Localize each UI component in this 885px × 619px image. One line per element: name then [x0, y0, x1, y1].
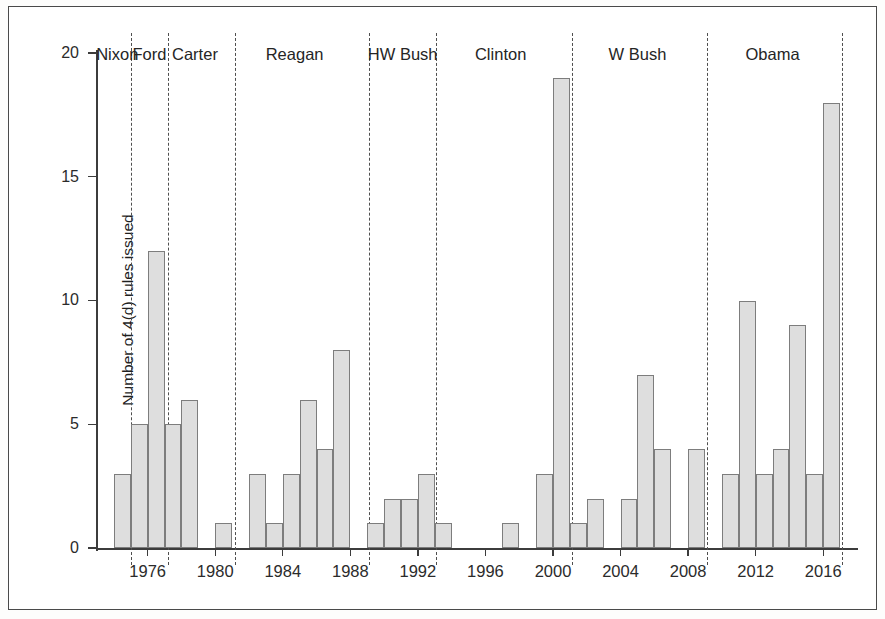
- y-tick-label: 20: [61, 44, 79, 62]
- bar: [215, 523, 232, 548]
- president-label: Obama: [745, 45, 799, 64]
- x-tick-label: 1992: [400, 562, 437, 581]
- bar: [114, 474, 131, 548]
- bar: [317, 449, 334, 548]
- term-divider-line: [369, 33, 370, 565]
- y-tick: 20: [88, 52, 96, 53]
- bar: [688, 449, 705, 548]
- y-tick: 5: [88, 424, 96, 425]
- bar: [384, 499, 401, 549]
- y-tick-label: 0: [70, 539, 79, 557]
- x-tick-label: 1984: [264, 562, 301, 581]
- y-tick-label: 5: [70, 415, 79, 433]
- x-tick-label: 2008: [670, 562, 707, 581]
- figure-container: Number of 4(d) rules issued 05101520 197…: [0, 0, 885, 619]
- president-label: Carter: [172, 45, 218, 64]
- x-tick-label: 2004: [602, 562, 639, 581]
- term-divider-line: [572, 33, 573, 565]
- bar: [367, 523, 384, 548]
- x-tick-label: 1988: [332, 562, 369, 581]
- bar: [722, 474, 739, 548]
- president-label: HW Bush: [368, 45, 438, 64]
- x-tick: [282, 548, 283, 556]
- term-divider-line: [436, 33, 437, 565]
- term-divider-line: [707, 33, 708, 565]
- x-tick-label: 1996: [467, 562, 504, 581]
- y-tick: 0: [88, 547, 96, 548]
- x-axis-line: [96, 548, 858, 550]
- bar: [333, 350, 350, 548]
- president-label: Clinton: [475, 45, 526, 64]
- x-tick: [823, 548, 824, 556]
- bar: [435, 523, 452, 548]
- term-divider-line: [235, 33, 236, 565]
- bar: [502, 523, 519, 548]
- bar: [654, 449, 671, 548]
- president-label: Reagan: [266, 45, 324, 64]
- bar: [756, 474, 773, 548]
- x-tick-label: 2012: [737, 562, 774, 581]
- bar: [773, 449, 790, 548]
- y-axis-line: [96, 50, 98, 551]
- president-label: Ford: [132, 45, 166, 64]
- bar: [823, 103, 840, 549]
- president-label: W Bush: [609, 45, 667, 64]
- y-tick-label: 15: [61, 168, 79, 186]
- bar: [739, 301, 756, 549]
- y-tick-label: 10: [61, 291, 79, 309]
- x-tick: [215, 548, 216, 556]
- x-tick: [147, 548, 148, 556]
- x-tick: [755, 548, 756, 556]
- x-tick-label: 2000: [535, 562, 572, 581]
- x-tick: [687, 548, 688, 556]
- x-tick: [620, 548, 621, 556]
- bar: [181, 400, 198, 549]
- bar: [553, 78, 570, 548]
- x-tick: [485, 548, 486, 556]
- x-tick-label: 2016: [805, 562, 842, 581]
- bar: [249, 474, 266, 548]
- bar: [266, 523, 283, 548]
- bar: [283, 474, 300, 548]
- y-tick: 10: [88, 300, 96, 301]
- bar: [587, 499, 604, 549]
- x-tick-label: 1976: [129, 562, 166, 581]
- bar: [418, 474, 435, 548]
- y-tick: 15: [88, 176, 96, 177]
- x-tick: [417, 548, 418, 556]
- bar: [570, 523, 587, 548]
- y-axis-label: Number of 4(d) rules issued: [119, 214, 137, 405]
- bar: [165, 424, 182, 548]
- bar: [300, 400, 317, 549]
- bar: [806, 474, 823, 548]
- x-tick: [350, 548, 351, 556]
- bar: [401, 499, 418, 549]
- x-tick: [552, 548, 553, 556]
- y-axis-label-wrap: Number of 4(d) rules issued: [14, 150, 40, 470]
- term-divider-line: [842, 33, 843, 565]
- bar: [621, 499, 638, 549]
- x-tick-label: 1980: [197, 562, 234, 581]
- bar: [637, 375, 654, 548]
- bar: [536, 474, 553, 548]
- bar: [789, 325, 806, 548]
- bar: [131, 424, 148, 548]
- bar: [148, 251, 165, 548]
